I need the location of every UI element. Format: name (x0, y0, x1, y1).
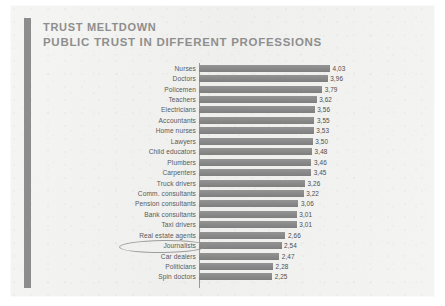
bar-track: 3,01 (199, 220, 434, 230)
bar-value-label: 3,26 (307, 180, 320, 187)
bar-row: Lawyers3,50 (11, 136, 434, 146)
bar-row: Truck drivers3,26 (11, 178, 434, 188)
bar-track: 3,53 (199, 126, 434, 136)
bar-value-label: 3,62 (319, 96, 332, 103)
bar-value-label: 2,47 (282, 253, 295, 260)
bar-row: Nurses4,03 (11, 63, 434, 73)
bar (199, 242, 282, 249)
chart-heading: TRUST MELTDOWN PUBLIC TRUST IN DIFFERENT… (43, 20, 413, 50)
bar-track: 3,26 (199, 178, 434, 188)
bar-row-label: Lawyers (11, 138, 199, 145)
bar (199, 200, 298, 207)
bar-track: 2,47 (199, 251, 434, 261)
bar-row: Plumbers3,46 (11, 157, 434, 167)
bar-row: Real estate agents2,66 (11, 230, 434, 240)
bar (199, 148, 312, 155)
bar (199, 106, 315, 113)
bar-row: Journalists2,54 (11, 240, 434, 250)
bar-row: Taxi drivers3,01 (11, 220, 434, 230)
bar-track: 3,06 (199, 199, 434, 209)
bar-value-label: 3,56 (317, 106, 330, 113)
bar-track: 3,56 (199, 105, 434, 115)
bar-row-label: Carpenters (11, 169, 199, 176)
bar-row-label: Plumbers (11, 159, 199, 166)
bar-track: 3,45 (199, 167, 434, 177)
bar-value-label: 2,54 (284, 242, 297, 249)
bar-row: Bank consultants3,01 (11, 209, 434, 219)
bar (199, 159, 311, 166)
bar-row: Accountants3,55 (11, 115, 434, 125)
bar-row: Politicians2,28 (11, 261, 434, 271)
bar (199, 273, 272, 280)
bar-row-label: Politicians (11, 263, 199, 270)
bar-row: Comm. consultants3,22 (11, 188, 434, 198)
bar-row-label: Truck drivers (11, 180, 199, 187)
bar-track: 3,79 (199, 84, 434, 94)
bar-value-label: 3,46 (314, 159, 327, 166)
bar-row-label: Doctors (11, 75, 199, 82)
bar-row-label: Car dealers (11, 253, 199, 260)
bar-value-label: 3,45 (314, 169, 327, 176)
bar-row-label: Electricians (11, 106, 199, 113)
bar-row-label: Home nurses (11, 127, 199, 134)
bar-value-label: 2,25 (275, 273, 288, 280)
bar-track: 3,01 (199, 209, 434, 219)
bar-row-label: Teachers (11, 96, 199, 103)
bar-value-label: 3,55 (317, 117, 330, 124)
bar (199, 96, 317, 103)
bar (199, 221, 297, 228)
bar-value-label: 3,48 (315, 148, 328, 155)
bar-row-label: Real estate agents (11, 232, 199, 239)
scanned-page: TRUST MELTDOWN PUBLIC TRUST IN DIFFERENT… (11, 6, 434, 296)
bar-row-label: Spin doctors (11, 273, 199, 280)
bar-row: Child educators3,48 (11, 147, 434, 157)
bar-value-label: 3,01 (299, 211, 312, 218)
bar-row: Spin doctors2,25 (11, 272, 434, 282)
bar (199, 263, 273, 270)
screenshot-root: TRUST MELTDOWN PUBLIC TRUST IN DIFFERENT… (0, 0, 445, 306)
bar-track: 2,25 (199, 272, 434, 282)
bar-row-label: Journalists (11, 242, 199, 249)
bar-track: 3,22 (199, 188, 434, 198)
bar-row-label: Policemen (11, 86, 199, 93)
bar (199, 117, 314, 124)
bar-value-label: 4,03 (333, 65, 346, 72)
page-subtitle: PUBLIC TRUST IN DIFFERENT PROFESSIONS (43, 35, 413, 50)
bar-row: Pension consultants3,06 (11, 199, 434, 209)
bar-row: Doctors3,96 (11, 73, 434, 83)
bar-row: Electricians3,56 (11, 105, 434, 115)
bar-value-label: 2,28 (276, 263, 289, 270)
bar-track: 3,46 (199, 157, 434, 167)
bar-value-label: 3,01 (299, 221, 312, 228)
bar (199, 65, 330, 72)
bar-row-label: Accountants (11, 117, 199, 124)
bar-track: 3,50 (199, 136, 434, 146)
bar-row: Teachers3,62 (11, 94, 434, 104)
bar-row-label: Comm. consultants (11, 190, 199, 197)
bar (199, 232, 285, 239)
bar-rows: Nurses4,03Doctors3,96Policemen3,79Teache… (11, 63, 434, 282)
bar (199, 138, 313, 145)
bar (199, 211, 297, 218)
bar-track: 2,66 (199, 230, 434, 240)
bar-track: 2,54 (199, 240, 434, 250)
bar-track: 3,62 (199, 94, 434, 104)
bar (199, 169, 311, 176)
bar-row: Home nurses3,53 (11, 126, 434, 136)
bar-track: 2,28 (199, 261, 434, 271)
bar-track: 3,96 (199, 73, 434, 83)
page-title: TRUST MELTDOWN (43, 20, 413, 35)
bar (199, 190, 304, 197)
bar (199, 180, 305, 187)
bar-row-label: Pension consultants (11, 200, 199, 207)
bar-value-label: 3,06 (301, 200, 314, 207)
bar-value-label: 3,79 (325, 86, 338, 93)
bar-row-label: Child educators (11, 148, 199, 155)
bar-row-label: Nurses (11, 65, 199, 72)
bar-value-label: 3,96 (330, 75, 343, 82)
bar-row: Carpenters3,45 (11, 167, 434, 177)
bar-track: 3,55 (199, 115, 434, 125)
bar (199, 75, 328, 82)
bar-value-label: 3,22 (306, 190, 319, 197)
bar-value-label: 2,66 (288, 232, 301, 239)
